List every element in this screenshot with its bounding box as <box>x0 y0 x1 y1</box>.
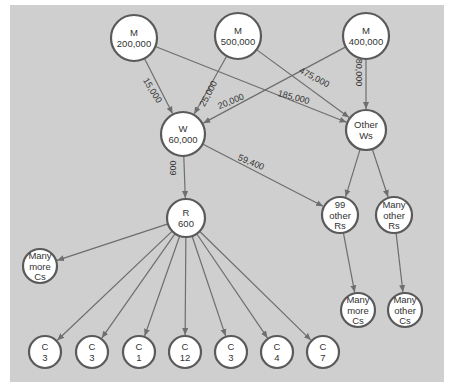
node-r99: 99otherRs <box>322 197 358 233</box>
node-label: 3 <box>89 352 94 363</box>
node-label: Cs <box>352 315 364 326</box>
node-label: M <box>234 25 242 36</box>
node-label: 12 <box>180 352 191 363</box>
node-label: C <box>136 341 143 352</box>
flow-diagram: 15,00025,00020,000185,000475,000380,0006… <box>0 0 449 388</box>
node-label: C <box>274 341 281 352</box>
edge-r-to-c4 <box>185 237 186 335</box>
node-label: 3 <box>42 352 47 363</box>
node-label: C <box>228 341 235 352</box>
node-label: C <box>89 341 96 352</box>
node-mcl: ManymoreCs <box>23 249 57 283</box>
node-c3: C1 <box>123 336 155 368</box>
node-label: 7 <box>320 352 325 363</box>
node-label: 600 <box>178 218 194 229</box>
edge-w-to-r <box>184 156 186 198</box>
edge-r-to-mcl <box>57 224 168 260</box>
node-label: other <box>383 210 405 221</box>
edge-label: 475,000 <box>298 65 331 89</box>
edge-mors-to-moc <box>396 233 403 292</box>
node-c7: C7 <box>307 336 339 368</box>
node-label: 500,000 <box>221 36 255 47</box>
edge-r-to-c6 <box>197 234 268 338</box>
node-label: Many <box>393 294 416 305</box>
edge-ows-to-r99 <box>346 149 361 197</box>
node-m1: M200,000 <box>111 15 157 61</box>
node-label: W <box>179 123 188 134</box>
node-label: Many <box>28 250 51 261</box>
node-label: more <box>29 261 51 272</box>
edge-w-to-r99 <box>203 144 324 206</box>
node-label: other <box>329 210 351 221</box>
node-c5: C3 <box>215 336 247 368</box>
node-label: 400,000 <box>349 36 383 47</box>
node-label: M <box>130 27 138 38</box>
edge-r-to-c1 <box>57 231 172 340</box>
node-label: Rs <box>388 220 400 231</box>
node-label: R <box>183 207 190 218</box>
node-label: M <box>362 25 370 36</box>
edge-label: 185,000 <box>277 88 311 106</box>
node-m3: M400,000 <box>343 13 389 59</box>
node-mcr: ManymoreCs <box>341 293 375 327</box>
node-c4: C12 <box>169 336 201 368</box>
edge-m2-to-ows <box>257 50 350 118</box>
node-label: 200,000 <box>117 38 151 49</box>
node-c1: C3 <box>29 336 61 368</box>
edge-label: 600 <box>168 160 178 175</box>
node-label: 60,000 <box>168 134 197 145</box>
node-w: W60,000 <box>161 112 205 156</box>
node-label: Many <box>382 199 405 210</box>
edge-r99-to-mcr <box>343 233 354 293</box>
node-label: more <box>347 305 369 316</box>
node-label: Other <box>354 119 378 130</box>
node-c2: C3 <box>76 336 108 368</box>
edge-r-to-c7 <box>200 231 311 340</box>
node-label: C <box>42 341 49 352</box>
edge-label: 25,000 <box>197 79 219 108</box>
node-label: Cs <box>34 271 46 282</box>
node-label: Many <box>346 294 369 305</box>
node-mors: ManyotherRs <box>376 197 412 233</box>
node-m2: M500,000 <box>215 13 261 59</box>
node-c6: C4 <box>261 336 293 368</box>
edge-ows-to-mors <box>372 149 388 197</box>
node-label: 1 <box>136 352 141 363</box>
node-label: C <box>320 341 327 352</box>
node-label: other <box>394 305 416 316</box>
node-label: 3 <box>228 352 233 363</box>
node-label: Rs <box>334 220 346 231</box>
node-r: R600 <box>167 199 205 237</box>
node-label: 4 <box>274 352 279 363</box>
edge-r-to-c2 <box>102 234 175 339</box>
node-ows: OtherWs <box>346 110 386 150</box>
node-label: Ws <box>359 130 373 141</box>
node-label: Cs <box>399 315 411 326</box>
node-moc: ManyotherCs <box>388 293 422 327</box>
node-label: 99 <box>335 199 346 210</box>
node-label: C <box>182 341 189 352</box>
